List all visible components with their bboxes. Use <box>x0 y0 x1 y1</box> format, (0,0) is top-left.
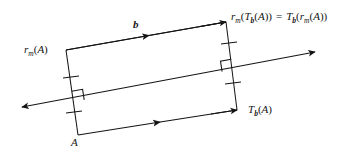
label-origin-point: A <box>71 137 78 148</box>
geometry-figure: rm(Tb(A))=Tb(rm(A)) rm(A) Tb(A) A b <box>0 0 360 157</box>
rm-close: ) <box>44 43 48 55</box>
eq-lhs-translate-sub: b <box>251 16 255 25</box>
tick-mark-left-upper <box>63 76 79 78</box>
bottom-edge-terminal-arrow <box>211 110 237 114</box>
right-angle-marker-right <box>221 59 232 71</box>
eq-rhs-translate-sub: b <box>292 16 296 25</box>
label-reflected-point: rm(A) <box>24 44 48 55</box>
tb-sub: b <box>254 109 258 118</box>
right-angle-marker-left <box>72 89 84 100</box>
eq-lhs-reflect-sub: m <box>235 16 240 25</box>
tb-close: ) <box>268 103 272 115</box>
right-angle-markers-group <box>72 59 231 100</box>
tick-mark-right-lower <box>225 82 241 84</box>
parallelogram-left-edge <box>66 50 78 135</box>
top-edge-terminal-arrow <box>200 22 226 27</box>
eq-lhs-close1: ) <box>268 10 272 22</box>
eq-equals: = <box>276 10 282 22</box>
label-translated-point: Tb(A) <box>248 104 272 115</box>
eq-lhs-point: A <box>258 10 265 22</box>
parallelogram-right-edge <box>226 22 237 110</box>
mirror-line-group <box>22 52 315 107</box>
tick-mark-left-lower <box>66 111 82 113</box>
rm-sub: m <box>28 49 33 58</box>
eq-lhs-translate-fn: T <box>244 10 250 22</box>
eq-rhs-reflect-sub: m <box>304 16 309 25</box>
label-image-point-equation: rm(Tb(A))=Tb(rm(A)) <box>231 11 327 22</box>
tick-marks-group <box>63 42 241 113</box>
parallelogram-group <box>66 22 237 135</box>
eq-rhs-point: A <box>313 10 320 22</box>
label-translation-vector: b <box>133 19 139 30</box>
eq-rhs-close1: ) <box>324 10 328 22</box>
mirror-line-m <box>22 52 315 107</box>
